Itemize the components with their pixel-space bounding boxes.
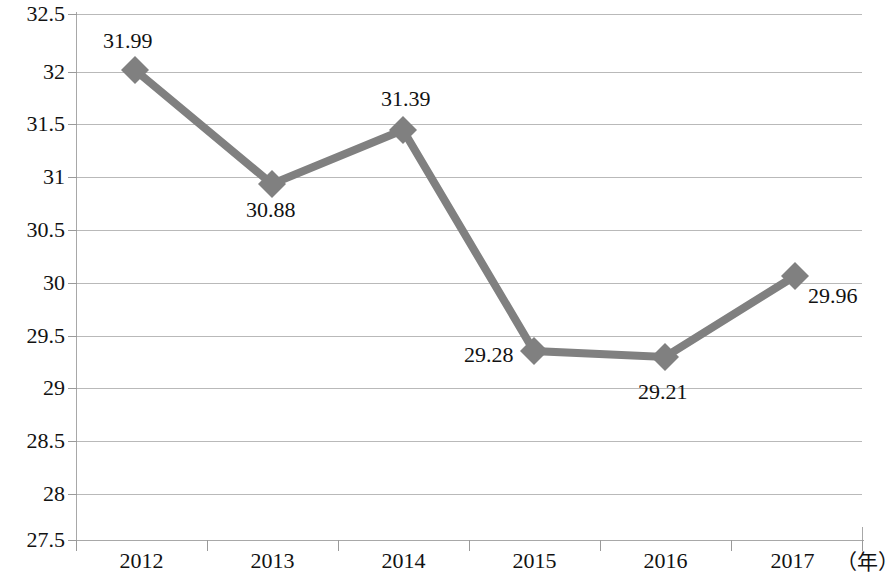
gridline: [76, 177, 862, 178]
y-tick-label: 31: [3, 166, 65, 188]
x-tick-label-2013: 2013: [207, 548, 338, 574]
x-axis-unit-label: （年）: [836, 549, 895, 575]
y-tick-label: 32: [3, 61, 65, 83]
gridline: [76, 124, 862, 125]
y-tick-mark: [68, 14, 77, 15]
y-tick-mark: [68, 388, 77, 389]
gridline: [76, 230, 862, 231]
line-chart: 32.5 32 31.5 31 30.5 30 29.5 29 28.5 28 …: [0, 0, 895, 581]
data-label-2014: 31.39: [381, 88, 431, 110]
gridline: [76, 388, 862, 389]
data-label-2016: 29.21: [638, 381, 688, 403]
x-tick-label-2016: 2016: [600, 548, 731, 574]
x-tick-label-2015: 2015: [469, 548, 600, 574]
gridline: [76, 336, 862, 337]
data-label-2015: 29.28: [464, 344, 514, 366]
y-tick-mark: [68, 336, 77, 337]
gridline: [76, 14, 862, 15]
y-tick-label: 31.5: [3, 113, 65, 135]
gridline: [76, 494, 862, 495]
y-tick-label: 30.5: [3, 219, 65, 241]
x-tick-label-2012: 2012: [76, 548, 207, 574]
data-label-2012: 31.99: [103, 30, 153, 52]
y-tick-mark: [68, 124, 77, 125]
y-tick-label: 30: [3, 272, 65, 294]
y-tick-mark: [68, 283, 77, 284]
y-tick-label: 29: [3, 377, 65, 399]
plot-area: [76, 14, 862, 540]
y-tick-label: 28.5: [3, 430, 65, 452]
y-tick-label: 32.5: [3, 3, 65, 25]
y-tick-mark: [68, 72, 77, 73]
y-tick-mark: [68, 177, 77, 178]
y-tick-label: 27.5: [3, 529, 65, 551]
y-tick-mark: [68, 230, 77, 231]
x-axis-right-cap: [862, 527, 863, 541]
y-tick-label: 29.5: [3, 325, 65, 347]
y-axis-line: [76, 12, 77, 542]
y-tick-mark: [68, 441, 77, 442]
y-tick-label: 28: [3, 483, 65, 505]
gridline: [76, 283, 862, 284]
data-label-2017: 29.96: [808, 285, 858, 307]
data-label-2013: 30.88: [246, 199, 296, 221]
y-tick-mark: [68, 494, 77, 495]
x-tick-label-2014: 2014: [338, 548, 469, 574]
gridline: [76, 441, 862, 442]
gridline: [76, 72, 862, 73]
